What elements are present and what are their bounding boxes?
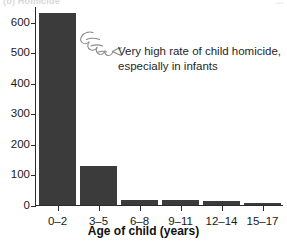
- y-axis-tick: [31, 114, 36, 115]
- y-axis-tick-label: 100: [0, 170, 30, 182]
- y-axis-tick-label: 600: [0, 17, 30, 29]
- y-axis-tick-label: 300: [0, 109, 30, 121]
- bar-series: [37, 11, 283, 205]
- y-axis-tick-label: 500: [0, 48, 30, 60]
- x-axis-tick: [263, 206, 264, 211]
- bar-slot: [242, 11, 283, 205]
- x-tick-slot: [201, 206, 242, 211]
- y-axis-tick-label: 400: [0, 78, 30, 90]
- x-axis-tick: [140, 206, 141, 211]
- x-tick-slot: [37, 206, 78, 211]
- x-axis-title: Age of child (years): [0, 224, 287, 238]
- cropped-caption-right: ...: [275, 0, 283, 6]
- x-tick-slot: [242, 206, 283, 211]
- y-axis-tick: [31, 23, 36, 24]
- y-axis-tick-label: 200: [0, 139, 30, 151]
- y-axis-tick: [31, 206, 36, 207]
- y-axis-tick: [31, 84, 36, 85]
- x-axis-tick: [222, 206, 223, 211]
- y-axis-tick: [31, 175, 36, 176]
- bar: [203, 201, 239, 205]
- bar-slot: [160, 11, 201, 205]
- bar-slot: [201, 11, 242, 205]
- y-axis-tick-label: 0: [0, 200, 30, 212]
- cropped-top-caption-strip: (b) Homicide ...: [0, 0, 287, 10]
- cropped-caption-left: (b) Homicide: [3, 0, 60, 6]
- x-axis-ticks: [37, 206, 283, 211]
- bar-slot: [119, 11, 160, 205]
- bar-chart-figure: (b) Homicide ... 0100200300400500600 0–2…: [0, 0, 287, 247]
- y-axis-tick: [31, 145, 36, 146]
- chart-annotation: Very high rate of child homicide, especi…: [118, 44, 283, 73]
- bar: [162, 200, 198, 205]
- pointing-hand-icon: [76, 26, 124, 64]
- x-tick-slot: [160, 206, 201, 211]
- annotation-line-1: Very high rate of child homicide,: [118, 44, 283, 59]
- y-axis-tick: [31, 53, 36, 54]
- bar: [121, 200, 157, 205]
- x-axis-tick: [99, 206, 100, 211]
- plot-area: 0100200300400500600 0–23–56–89–1112–1415…: [36, 12, 283, 206]
- bar: [80, 166, 116, 205]
- x-axis-tick: [58, 206, 59, 211]
- bar: [39, 13, 75, 205]
- bar: [244, 203, 280, 205]
- annotation-line-2: especially in infants: [118, 59, 283, 74]
- x-tick-slot: [119, 206, 160, 211]
- x-tick-slot: [78, 206, 119, 211]
- bar-slot: [37, 11, 78, 205]
- x-axis-tick: [181, 206, 182, 211]
